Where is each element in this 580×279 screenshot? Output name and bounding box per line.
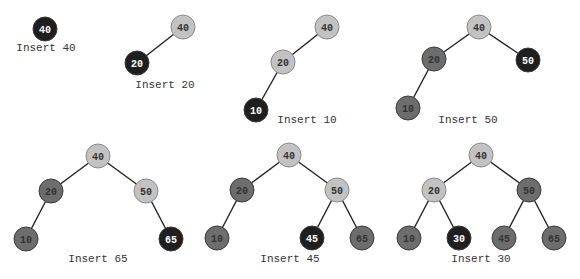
tree-step-2: 4020Insert 20 <box>125 15 195 91</box>
node-label: 45 <box>306 234 318 245</box>
node-label: 40 <box>473 23 485 34</box>
tree-node-50: 50 <box>516 48 540 72</box>
node-label: 10 <box>250 106 262 117</box>
node-label: 65 <box>165 235 177 246</box>
node-label: 20 <box>45 187 57 198</box>
tree-node-40: 40 <box>171 15 195 39</box>
tree-node-20: 20 <box>125 51 149 75</box>
tree-node-10: 10 <box>14 227 38 251</box>
step-caption: Insert 40 <box>16 42 75 54</box>
tree-node-40: 40 <box>467 15 491 39</box>
tree-step-1: 40Insert 40 <box>16 17 75 54</box>
step-caption: Insert 10 <box>277 114 336 126</box>
tree-step-4: 40201050Insert 50 <box>396 15 540 126</box>
step-caption: Insert 65 <box>68 253 127 265</box>
tree-node-10: 10 <box>397 226 421 250</box>
tree-node-45: 45 <box>300 226 324 250</box>
tree-node-50: 50 <box>134 179 158 203</box>
node-label: 40 <box>39 25 51 36</box>
node-label: 50 <box>140 187 152 198</box>
tree-node-20: 20 <box>230 178 254 202</box>
node-label: 40 <box>92 152 104 163</box>
tree-node-40: 40 <box>277 143 301 167</box>
tree-node-10: 10 <box>396 96 420 120</box>
tree-node-40: 40 <box>469 143 493 167</box>
tree-step-6: 402010504565Insert 45 <box>205 143 374 265</box>
tree-node-45: 45 <box>492 226 516 250</box>
node-label: 40 <box>177 23 189 34</box>
tree-step-7: 40201030504565Insert 30 <box>397 143 566 265</box>
tree-node-10: 10 <box>205 226 229 250</box>
tree-node-65: 65 <box>350 226 374 250</box>
step-caption: Insert 50 <box>438 114 497 126</box>
tree-node-50: 50 <box>517 178 541 202</box>
tree-node-65: 65 <box>542 226 566 250</box>
tree-node-40: 40 <box>33 17 57 41</box>
tree-node-50: 50 <box>325 178 349 202</box>
node-label: 20 <box>428 55 440 66</box>
step-caption: Insert 45 <box>260 253 319 265</box>
node-label: 10 <box>20 235 32 246</box>
tree-node-10: 10 <box>244 98 268 122</box>
node-label: 10 <box>403 234 415 245</box>
node-label: 50 <box>331 186 343 197</box>
node-label: 65 <box>356 234 368 245</box>
tree-node-40: 40 <box>315 15 339 39</box>
node-label: 50 <box>523 186 535 197</box>
node-label: 65 <box>548 234 560 245</box>
node-label: 30 <box>453 234 465 245</box>
tree-step-5: 4020105065Insert 65 <box>14 144 183 265</box>
node-label: 40 <box>321 23 333 34</box>
tree-node-30: 30 <box>447 226 471 250</box>
node-label: 20 <box>236 186 248 197</box>
node-label: 45 <box>498 234 510 245</box>
tree-node-20: 20 <box>271 50 295 74</box>
node-label: 20 <box>131 59 143 70</box>
tree-node-20: 20 <box>422 178 446 202</box>
tree-node-65: 65 <box>159 227 183 251</box>
node-label: 10 <box>402 104 414 115</box>
node-label: 40 <box>475 151 487 162</box>
node-label: 40 <box>283 151 295 162</box>
tree-step-3: 402010Insert 10 <box>244 15 339 126</box>
tree-node-20: 20 <box>39 179 63 203</box>
tree-node-40: 40 <box>86 144 110 168</box>
bst-insertion-diagram: 40Insert 404020Insert 20402010Insert 104… <box>0 0 580 279</box>
node-label: 10 <box>211 234 223 245</box>
tree-node-20: 20 <box>422 47 446 71</box>
node-label: 50 <box>522 56 534 67</box>
step-caption: Insert 20 <box>135 79 194 91</box>
node-label: 20 <box>277 58 289 69</box>
node-label: 20 <box>428 186 440 197</box>
step-caption: Insert 30 <box>451 253 510 265</box>
